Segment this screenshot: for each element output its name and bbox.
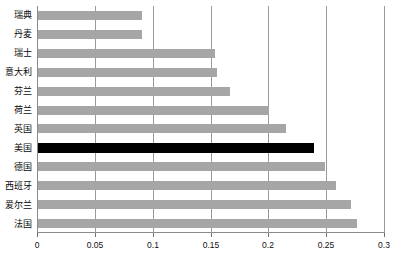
x-tick-label: 0.25	[318, 240, 335, 250]
category-label: 瑞典	[14, 10, 32, 20]
x-tick-label: 0.3	[378, 240, 390, 250]
plot-area: 00.050.10.150.20.250.3	[37, 6, 385, 233]
x-tick-label: 0.05	[87, 240, 104, 250]
bar	[38, 49, 215, 58]
bar	[38, 106, 269, 115]
category-axis-labels: 瑞典丹麦瑞士意大利芬兰荷兰英国美国德国西班牙爱尔兰法国	[0, 6, 34, 233]
x-tick-label: 0.1	[147, 240, 159, 250]
category-label: 德国	[14, 162, 32, 172]
category-label: 荷兰	[14, 105, 32, 115]
bar	[38, 200, 351, 209]
x-tick-mark	[37, 233, 38, 237]
category-label: 英国	[14, 124, 32, 134]
x-tick-label: 0.15	[203, 240, 220, 250]
category-label: 法国	[14, 219, 32, 229]
category-label: 西班牙	[5, 181, 32, 191]
x-tick-label: 0.2	[262, 240, 274, 250]
x-tick-mark	[268, 233, 269, 237]
x-tick-mark	[95, 233, 96, 237]
x-tick-mark	[326, 233, 327, 237]
x-tick-mark	[211, 233, 212, 237]
category-label: 丹麦	[14, 29, 32, 39]
category-label: 意大利	[5, 67, 32, 77]
category-label: 瑞士	[14, 48, 32, 58]
bar	[38, 219, 357, 228]
bars	[38, 6, 385, 233]
bar	[38, 143, 314, 153]
bar	[38, 30, 142, 39]
category-label: 美国	[14, 143, 32, 153]
bar	[38, 124, 286, 133]
category-label: 爱尔兰	[5, 200, 32, 210]
category-label: 芬兰	[14, 86, 32, 96]
bar	[38, 181, 336, 190]
bar	[38, 162, 325, 171]
bar	[38, 68, 217, 77]
bar	[38, 11, 142, 20]
bar-chart: 瑞典丹麦瑞士意大利芬兰荷兰英国美国德国西班牙爱尔兰法国 00.050.10.15…	[0, 0, 401, 259]
x-tick-mark	[384, 233, 385, 237]
x-tick-label: 0	[35, 240, 40, 250]
x-tick-mark	[153, 233, 154, 237]
bar	[38, 87, 230, 96]
